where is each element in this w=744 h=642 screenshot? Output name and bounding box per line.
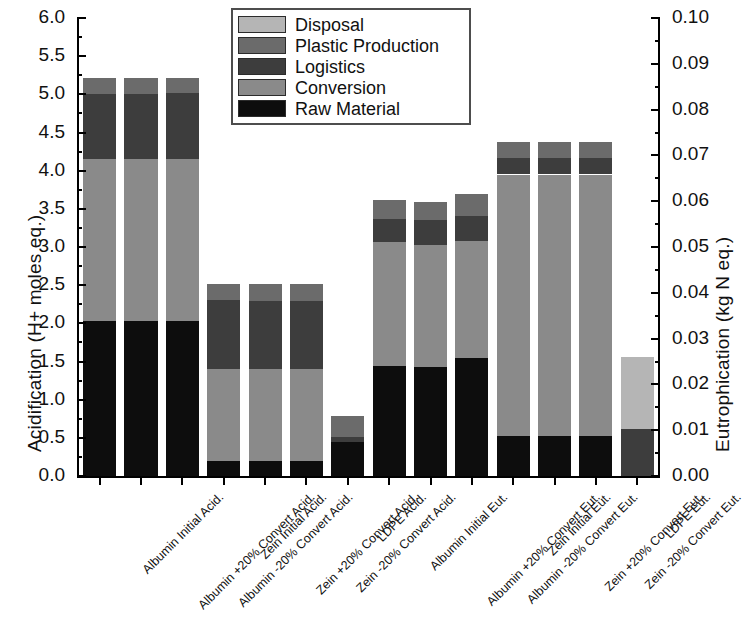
left-tick-major (77, 93, 86, 95)
left-tick-minor (77, 36, 82, 38)
bar-segment-logistics (455, 216, 488, 240)
legend-label: Plastic Production (295, 37, 439, 55)
bar-segment-raw-material (83, 321, 116, 476)
bar-2 (166, 78, 199, 476)
bar-segment-raw-material (579, 436, 612, 476)
bar-segment-logistics (290, 301, 323, 369)
right-tick-label: 0.07 (672, 143, 709, 165)
legend-swatch-icon (238, 37, 286, 54)
right-tick-label: 0.00 (672, 464, 709, 486)
right-tick-major (651, 475, 660, 477)
bar-segment-conversion (290, 369, 323, 461)
bar-segment-logistics (373, 219, 406, 243)
left-tick-label: 0.0 (0, 464, 65, 486)
legend-item: Logistics (238, 56, 463, 77)
bar-0 (83, 78, 116, 476)
bar-segment-logistics (207, 300, 240, 369)
x-label-2: Albumin -20% Convert Acid. (236, 490, 356, 610)
x-label-0: Albumin Initial Acid. (139, 490, 226, 577)
left-tick-minor (77, 265, 82, 267)
x-label-4: Zein +20% Convert Acid. (313, 490, 420, 597)
x-tick (595, 476, 597, 485)
legend: DisposalPlastic ProductionLogisticsConve… (231, 8, 471, 125)
left-tick-major (77, 437, 86, 439)
bar-9 (455, 194, 488, 476)
left-tick-minor (77, 380, 82, 382)
legend-swatch-icon (238, 79, 286, 96)
right-tick-major (651, 17, 660, 19)
right-tick-major (651, 338, 660, 340)
x-tick (223, 476, 225, 485)
left-tick-label: 2.5 (0, 273, 65, 295)
bar-segment-plastic-production (207, 284, 240, 301)
bar-segment-plastic-production (455, 194, 488, 217)
right-tick-minor (655, 452, 660, 454)
right-tick-label: 0.06 (672, 189, 709, 211)
bar-segment-conversion (414, 245, 447, 367)
bar-segment-raw-material (538, 436, 571, 476)
right-tick-minor (655, 315, 660, 317)
bar-segment-conversion (497, 175, 530, 437)
right-tick-minor (655, 177, 660, 179)
bar-segment-logistics (497, 158, 530, 175)
left-tick-label: 5.0 (0, 82, 65, 104)
left-tick-minor (77, 456, 82, 458)
figure-caption (0, 624, 737, 642)
left-tick-minor (77, 189, 82, 191)
right-tick-label: 0.01 (672, 418, 709, 440)
bar-segment-raw-material (166, 321, 199, 476)
bar-segment-conversion (166, 159, 199, 321)
left-tick-label: 6.0 (0, 6, 65, 28)
left-tick-minor (77, 341, 82, 343)
left-tick-minor (77, 112, 82, 114)
bar-6 (331, 416, 364, 476)
x-label-11: Zein +20% Convert Eut. (602, 490, 706, 594)
bar-segment-plastic-production (538, 142, 571, 158)
left-tick-minor (77, 74, 82, 76)
legend-label: Conversion (295, 79, 386, 97)
right-tick-label: 0.09 (672, 52, 709, 74)
left-tick-minor (77, 303, 82, 305)
right-tick-label: 0.05 (672, 235, 709, 257)
bar-11 (538, 142, 571, 476)
bar-segment-plastic-production (83, 78, 116, 95)
left-tick-major (77, 17, 86, 19)
bar-4 (249, 284, 282, 476)
left-tick-major (77, 475, 86, 477)
x-tick (554, 476, 556, 485)
bar-segment-raw-material (373, 366, 406, 476)
left-tick-major (77, 322, 86, 324)
bar-segment-plastic-production (290, 284, 323, 302)
bar-segment-conversion (207, 369, 240, 461)
right-tick-label: 0.02 (672, 372, 709, 394)
right-tick-major (651, 109, 660, 111)
legend-item: Plastic Production (238, 35, 463, 56)
x-label-13: LDPE Eut. (662, 490, 713, 541)
x-tick (347, 476, 349, 485)
x-tick (512, 476, 514, 485)
left-tick-major (77, 170, 86, 172)
bar-segment-conversion (249, 369, 282, 461)
x-label-3: Zein Initial Acid. (257, 490, 329, 562)
left-tick-label: 1.5 (0, 350, 65, 372)
left-tick-label: 3.0 (0, 235, 65, 257)
bar-segment-logistics (538, 158, 571, 175)
bar-segment-logistics (621, 429, 654, 476)
right-tick-major (651, 292, 660, 294)
legend-label: Disposal (295, 16, 364, 34)
right-tick-major (651, 246, 660, 248)
right-tick-major (651, 63, 660, 65)
right-tick-minor (655, 406, 660, 408)
right-tick-minor (655, 132, 660, 134)
left-tick-major (77, 399, 86, 401)
x-label-10: Zein Initial Eut. (545, 490, 613, 558)
left-tick-label: 5.5 (0, 44, 65, 66)
x-label-9: Albumin -20% Convert Eut. (524, 490, 641, 607)
legend-swatch-icon (238, 16, 286, 33)
bar-segment-plastic-production (373, 200, 406, 219)
right-tick-minor (655, 40, 660, 42)
bar-segment-plastic-production (249, 284, 282, 302)
bar-10 (497, 142, 530, 476)
right-tick-major (651, 200, 660, 202)
